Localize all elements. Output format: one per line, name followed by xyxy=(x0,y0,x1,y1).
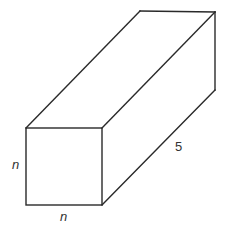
front-height-label: n xyxy=(12,158,19,171)
front-width-label: n xyxy=(60,210,67,223)
top-back-edge xyxy=(140,11,215,12)
rectangular-prism-diagram: n n 5 xyxy=(0,0,230,231)
front-square-face xyxy=(26,128,102,205)
bottom-right-receding-edge xyxy=(102,90,215,205)
length-label: 5 xyxy=(175,140,182,153)
prism-drawing xyxy=(0,0,230,231)
top-left-receding-edge xyxy=(26,11,140,128)
top-right-receding-edge xyxy=(102,12,215,128)
